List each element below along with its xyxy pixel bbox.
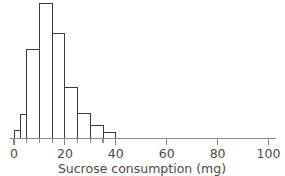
x-axis-title: Sucrose consumption (mg)	[58, 161, 226, 176]
histogram-bar	[40, 3, 53, 138]
histogram-bar	[14, 130, 20, 138]
x-tick-label: 40	[108, 146, 124, 161]
x-tick-label: 0	[10, 146, 18, 161]
x-tick-label: 20	[57, 146, 73, 161]
x-tick-label: 80	[210, 146, 226, 161]
histogram-bar	[78, 113, 91, 138]
histogram-bar	[27, 49, 40, 138]
x-tick-label: 60	[159, 146, 175, 161]
x-axis-tick-labels: 0 20 40 60 80 100	[10, 146, 280, 161]
x-tick-label: 100	[257, 146, 281, 161]
histogram-chart: 0 20 40 60 80 100 Sucrose consumption (m…	[0, 0, 285, 176]
histogram-bar	[65, 87, 78, 138]
chart-svg: 0 20 40 60 80 100 Sucrose consumption (m…	[0, 0, 285, 176]
histogram-bar	[90, 125, 103, 138]
histogram-bar	[52, 33, 65, 138]
histogram-bar	[103, 132, 116, 138]
bars-group	[14, 3, 116, 138]
histogram-bar	[20, 114, 26, 138]
